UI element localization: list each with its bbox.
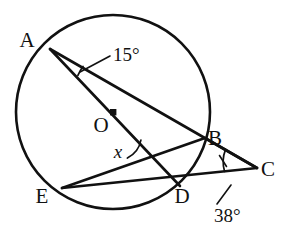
angle-label-x: x (113, 141, 123, 162)
geometry-canvas: A B C D E O 15° 38° x (0, 0, 286, 231)
angle-label-15deg: 15° (113, 44, 140, 65)
geometry-diagram: A B C D E O 15° 38° x (0, 0, 286, 231)
point-label-o: O (93, 113, 108, 137)
segment-a-to-d (50, 49, 180, 186)
point-label-e: E (36, 184, 49, 208)
leader-line-38deg (217, 185, 231, 204)
leader-line-15deg (80, 56, 110, 72)
point-label-c: C (261, 157, 275, 181)
circle-center-dot (110, 109, 116, 115)
point-label-d: D (174, 184, 189, 208)
point-label-b: B (208, 126, 222, 150)
point-label-a: A (19, 28, 35, 52)
angle-label-38deg: 38° (214, 205, 241, 226)
